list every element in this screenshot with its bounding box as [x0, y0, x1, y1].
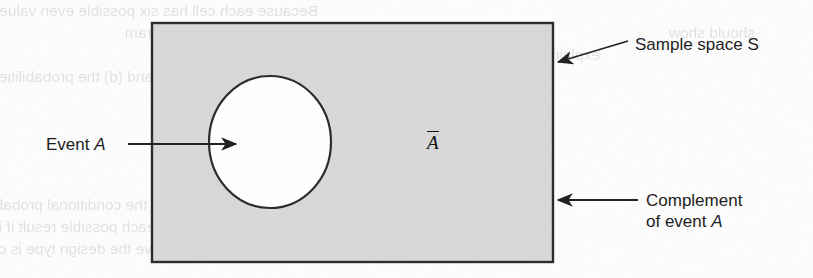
event-a-ellipse — [209, 76, 331, 208]
complement-symbol-a-bar: A — [427, 131, 439, 154]
event-a-label-symbol: A — [94, 135, 105, 154]
sample-space-arrow — [558, 41, 628, 62]
complement-label-line2-prefix: of event — [646, 212, 711, 231]
complement-label-line1: Complement — [646, 191, 742, 210]
event-a-label: Event A — [46, 134, 106, 155]
venn-diagram-figure: Because each cell has six possible even … — [0, 0, 813, 278]
complement-label-line2-symbol: A — [711, 212, 722, 231]
a-bar-glyph: A — [427, 131, 439, 152]
event-a-label-prefix: Event — [46, 135, 94, 154]
complement-label: Complementof event A — [646, 190, 742, 232]
sample-space-label: Sample space S — [635, 34, 759, 55]
